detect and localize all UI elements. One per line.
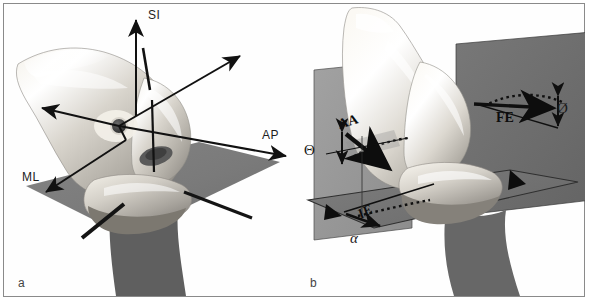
figure-root: SI AP ML a (0, 0, 589, 301)
axis-label-ml: ML (22, 170, 39, 184)
angle-symbol-phi: Ø (557, 100, 568, 117)
panel-a: SI AP ML a (4, 4, 293, 296)
rotation-label-fe: FE (496, 110, 514, 126)
panel-a-graphic (4, 4, 293, 296)
axis-label-ap: AP (262, 128, 279, 142)
panel-a-label: a (18, 276, 25, 290)
angle-symbol-alpha: α (350, 230, 358, 247)
panel-b-label: b (310, 276, 317, 290)
angle-symbol-theta: Θ (304, 142, 315, 159)
axis-label-si: SI (148, 8, 160, 22)
panel-b: FE Ø AA Θ IE α b (296, 4, 585, 296)
panel-b-graphic (296, 4, 585, 296)
